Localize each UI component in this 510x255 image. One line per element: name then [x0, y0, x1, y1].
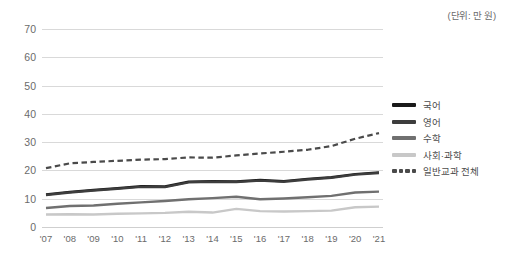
legend-label-영어: 영어 [423, 115, 441, 129]
series-line-수학 [46, 192, 379, 208]
legend-item-영어[interactable]: 영어 [392, 114, 508, 131]
y-tick-label-50: 50 [0, 80, 36, 91]
x-tick-label-20: '20 [349, 233, 361, 244]
plot-area [42, 29, 383, 227]
x-tick-label-13: '13 [183, 233, 195, 244]
x-tick-label-14: '14 [206, 233, 218, 244]
y-tick-label-70: 70 [0, 24, 36, 35]
legend-swatch-국어 [392, 103, 416, 107]
legend-swatch-사회·과학 [392, 153, 416, 157]
y-tick-label-60: 60 [0, 52, 36, 63]
y-tick-label-10: 10 [0, 193, 36, 204]
y-axis: 010203040506070 [0, 29, 36, 227]
line-chart: (단위: 만 원) 010203040506070 '07'08'09'10'1… [0, 0, 510, 255]
x-tick-label-11: '11 [135, 233, 147, 244]
gridline-0 [42, 227, 383, 228]
unit-note: (단위: 만 원) [448, 8, 496, 22]
x-tick-label-12: '12 [159, 233, 171, 244]
x-tick-label-09: '09 [87, 233, 99, 244]
legend-swatch-영어 [392, 120, 416, 124]
y-tick-label-0: 0 [0, 222, 36, 233]
legend-label-사회·과학: 사회·과학 [423, 148, 462, 162]
legend-swatch-일반교과 전체 [392, 169, 416, 173]
series-lines [42, 29, 383, 227]
legend-label-수학: 수학 [423, 131, 441, 145]
y-tick-label-20: 20 [0, 165, 36, 176]
x-tick-label-16: '16 [254, 233, 266, 244]
legend-item-수학[interactable]: 수학 [392, 130, 508, 147]
legend-item-사회·과학[interactable]: 사회·과학 [392, 147, 508, 164]
legend-label-국어: 국어 [423, 98, 441, 112]
y-tick-label-40: 40 [0, 109, 36, 120]
x-tick-label-21: '21 [373, 233, 385, 244]
legend-item-일반교과 전체[interactable]: 일반교과 전체 [392, 163, 508, 180]
chart-legend: 국어영어수학사회·과학일반교과 전체 [392, 97, 508, 180]
series-line-사회·과학 [46, 207, 379, 215]
x-tick-label-10: '10 [111, 233, 123, 244]
legend-item-국어[interactable]: 국어 [392, 97, 508, 114]
legend-swatch-수학 [392, 136, 416, 140]
series-line-일반교과 전체 [46, 133, 379, 168]
x-tick-label-19: '19 [325, 233, 337, 244]
legend-label-일반교과 전체: 일반교과 전체 [423, 164, 479, 178]
x-tick-label-15: '15 [230, 233, 242, 244]
x-tick-label-17: '17 [278, 233, 290, 244]
y-tick-label-30: 30 [0, 137, 36, 148]
x-tick-label-07: '07 [40, 233, 52, 244]
x-axis: '07'08'09'10'11'12'13'14'15'16'17'18'19'… [42, 231, 383, 249]
x-tick-label-08: '08 [64, 233, 76, 244]
x-tick-label-18: '18 [301, 233, 313, 244]
